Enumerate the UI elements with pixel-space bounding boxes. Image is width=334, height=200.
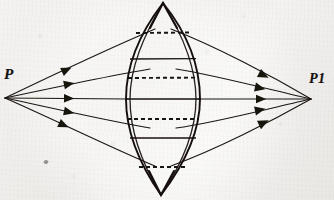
ray-upper-outer-outgoing [171,29,311,99]
image-point-label-p1: P1 [309,72,326,86]
arrowhead-axis-in [64,94,74,102]
arrowhead-axis-out [256,95,266,103]
source-point-label-p: P [4,67,14,82]
arrowhead-upper-outer-in [60,64,73,76]
diagram-canvas [0,0,334,200]
ray-lower-outer-incoming [5,98,155,166]
ray-direction-arrowheads-group [57,64,271,132]
ray-upper-outer-incoming [5,29,155,98]
light-rays-group [5,29,311,166]
arrowhead-lower-outer-in [57,119,70,131]
arrowhead-lower-inner-in [63,107,75,118]
optics-ray-diagram-figure: P P1 [0,0,334,200]
